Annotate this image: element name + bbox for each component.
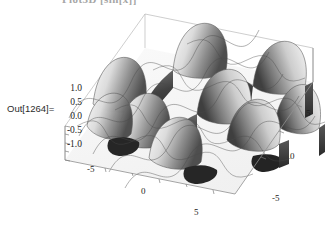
y-tick-label: -5 <box>272 193 280 203</box>
plot3d-graphic[interactable]: 1.0 0.5 0.0 -0.5 -1.0 -5 0 5 -5 0 5 <box>57 8 328 230</box>
output-prompt-label: Out[1264]= <box>7 103 54 114</box>
x-tick-label: 0 <box>141 186 146 196</box>
z-tick-label: -0.5 <box>51 125 82 135</box>
y-tick-label: 5 <box>306 108 311 118</box>
z-tick-label: -1.0 <box>51 139 82 149</box>
y-tick-label: 0 <box>290 151 295 161</box>
x-tick-label: 5 <box>194 207 199 217</box>
z-tick-label: 1.0 <box>54 83 82 93</box>
input-echo-text: Plot3D [sin[x]] <box>62 0 137 5</box>
surface-plot-svg <box>57 8 328 230</box>
notebook-output-cell: Plot3D [sin[x]] Out[1264]= <box>0 0 328 234</box>
z-tick-label: 0.5 <box>54 97 82 107</box>
x-tick-label: -5 <box>87 164 95 174</box>
z-tick-label: 0.0 <box>54 111 82 121</box>
